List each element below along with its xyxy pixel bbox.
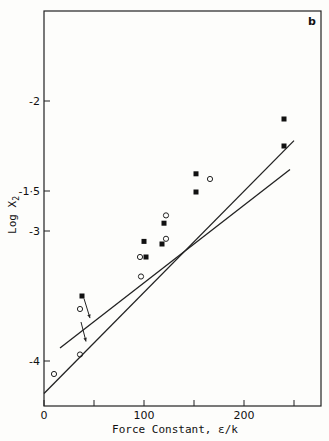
circle-marker: [163, 213, 168, 218]
fit-lines: [44, 141, 294, 394]
square-marker: [194, 171, 199, 176]
arrows: [81, 299, 91, 342]
x-axis-title: Force Constant, ε/k: [112, 423, 238, 436]
x-tick-label: 100: [134, 409, 155, 422]
circle-marker: [51, 371, 56, 376]
square-marker: [282, 117, 287, 122]
axis-ticks: 0100200-1·5-2-3-4: [19, 95, 294, 422]
plot-frame: [44, 11, 321, 406]
circle-marker: [163, 236, 168, 241]
y-tick-label: -1·5: [19, 185, 40, 198]
y-tick-label: -3: [29, 225, 40, 238]
x-tick-label: 200: [234, 409, 255, 422]
square-marker: [194, 190, 199, 195]
x-tick-label: 0: [41, 409, 48, 422]
square-marker: [282, 144, 287, 149]
square-marker: [160, 242, 165, 247]
circle-marker: [207, 176, 212, 181]
chart: 0100200-1·5-2-3-4 b Force Constant, ε/k …: [0, 0, 329, 441]
circle-marker: [138, 274, 143, 279]
y-axis-title: Log X2: [6, 196, 21, 234]
square-marker: [80, 294, 85, 299]
circle-marker: [137, 254, 142, 259]
square-marker: [144, 255, 149, 260]
square-marker: [162, 221, 167, 226]
panel-label: b: [308, 15, 316, 28]
square-marker: [142, 239, 147, 244]
fit-line: [60, 169, 290, 348]
fit-line: [44, 141, 294, 394]
circle-marker: [77, 306, 82, 311]
y-tick-label: -2: [29, 95, 40, 108]
data-markers: [51, 117, 286, 377]
y-tick-label: -4: [29, 355, 40, 368]
